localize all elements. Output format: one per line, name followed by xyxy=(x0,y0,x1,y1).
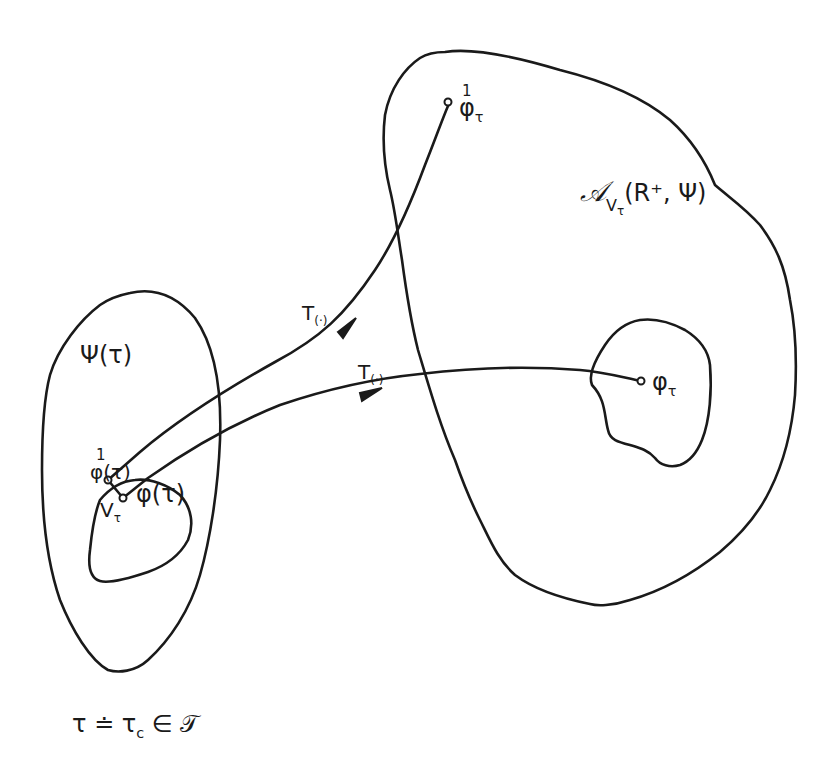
right-set-label: 𝒜Vτ(R⁺, Ψ) xyxy=(580,178,706,217)
lower-trajectory xyxy=(123,368,641,498)
lower-arrowhead-icon xyxy=(360,388,382,401)
upper-arrowhead-icon xyxy=(338,318,356,338)
v-tau-label: Vτ xyxy=(100,500,121,524)
phi-tau-end-label: φτ xyxy=(652,370,677,399)
lower-arrow-label: T(·) xyxy=(358,362,383,386)
diagram-drawing xyxy=(0,0,830,783)
phi-one-end-label: φτ xyxy=(459,96,484,125)
diagram-canvas: Ψ(τ) 1 φ(τ) Vτ φ(τ) T(·) T(·) 1 φτ 𝒜Vτ(R… xyxy=(0,0,830,783)
right-set-boundary xyxy=(384,51,796,605)
phi-one-start-label: φ(τ) xyxy=(90,462,131,482)
phi-one-end-point-icon xyxy=(445,99,452,106)
phi-start-label: φ(τ) xyxy=(136,482,185,506)
left-set-label: Ψ(τ) xyxy=(80,343,132,367)
right-inner-region-boundary xyxy=(591,319,711,466)
phi-tau-end-point-icon xyxy=(638,378,645,385)
caption: τ ≐ τc ∈ 𝒯 xyxy=(72,712,198,741)
upper-arrow-label: T(·) xyxy=(302,303,327,327)
